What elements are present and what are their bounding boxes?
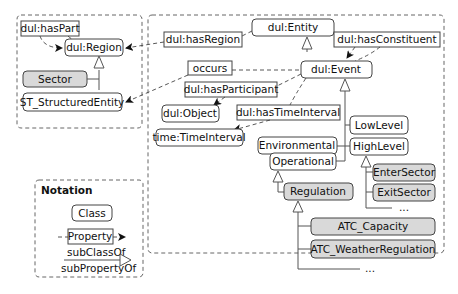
svg-text:ATC_Capacity: ATC_Capacity: [338, 220, 409, 233]
has-part-range-arrow: [40, 36, 62, 48]
svg-text:Operational: Operational: [272, 155, 334, 167]
property-has-time-interval[interactable]: dul:hasTimeInterval: [236, 105, 340, 120]
class-object[interactable]: dul:Object: [162, 105, 219, 122]
svg-text:dul:Entity: dul:Entity: [268, 21, 318, 33]
svg-text:dul:Object: dul:Object: [163, 107, 217, 119]
class-event[interactable]: dul:Event: [301, 61, 372, 78]
has-region-range-arrow: [126, 42, 164, 48]
has-time-interval-domain-line: [290, 78, 306, 105]
class-atc-weather-regulation[interactable]: ATC_WeatherRegulation: [310, 240, 435, 258]
svg-text:dul:hasPart: dul:hasPart: [20, 22, 79, 34]
svg-text:dul:hasTimeInterval: dul:hasTimeInterval: [236, 106, 340, 118]
svg-text:HighLevel: HighLevel: [353, 140, 405, 152]
notation-property: Property: [58, 229, 125, 244]
property-has-participant[interactable]: dul:hasParticipant: [184, 82, 279, 97]
svg-text:Property: Property: [68, 230, 112, 242]
class-environmental[interactable]: Environmental: [258, 137, 337, 154]
svg-text:Class: Class: [78, 207, 106, 219]
has-participant-domain-line: [277, 74, 301, 86]
class-regulation[interactable]: Regulation: [284, 183, 353, 200]
svg-text:Sector: Sector: [38, 73, 72, 85]
class-time-interval[interactable]: time:TimeInterval: [152, 129, 245, 146]
has-region-domain-line: [242, 31, 252, 36]
property-has-constituent[interactable]: dul:hasConstituent: [334, 32, 440, 47]
ellipsis-high-level: ...: [399, 201, 409, 213]
class-high-level[interactable]: HighLevel: [350, 138, 408, 155]
property-has-region[interactable]: dul:hasRegion: [164, 32, 242, 47]
subclass-arrow-high-level: [361, 156, 371, 167]
svg-text:dul:hasRegion: dul:hasRegion: [166, 33, 240, 45]
has-time-interval-range-arrow: [234, 120, 270, 130]
svg-text:dul:Region: dul:Region: [66, 41, 122, 53]
subclass-line-sector: [87, 70, 99, 90]
has-participant-range-arrow: [214, 97, 225, 105]
class-atc-capacity[interactable]: ATC_Capacity: [311, 218, 435, 235]
subclass-arrow-entity: [302, 37, 312, 49]
class-operational[interactable]: Operational: [270, 153, 336, 170]
notation-title: Notation: [41, 184, 92, 196]
svg-text:occurs: occurs: [193, 62, 227, 74]
subclass-arrow-operational: [273, 171, 283, 182]
svg-text:ST_StructuredEntity: ST_StructuredEntity: [20, 96, 125, 109]
svg-text:LowLevel: LowLevel: [355, 119, 403, 131]
subclass-arrow-regulation: [293, 201, 303, 212]
class-exit-sector[interactable]: ExitSector: [373, 184, 435, 201]
notation-class: Class: [72, 205, 112, 221]
svg-text:EnterSector: EnterSector: [373, 166, 436, 178]
occurs-range-arrow: [126, 75, 188, 102]
class-sector[interactable]: Sector: [23, 71, 87, 87]
class-region[interactable]: dul:Region: [65, 39, 123, 56]
svg-text:dul:hasConstituent: dul:hasConstituent: [337, 33, 436, 45]
class-st-structured-entity[interactable]: ST_StructuredEntity: [20, 93, 125, 111]
ontology-diagram: dul:Region dul:hasPart Sector ST_Structu…: [0, 0, 458, 294]
event-subclass-lines: [336, 91, 351, 161]
svg-text:ExitSector: ExitSector: [377, 186, 431, 198]
svg-text:ATC_WeatherRegulation: ATC_WeatherRegulation: [310, 243, 435, 256]
class-enter-sector[interactable]: EnterSector: [373, 164, 436, 181]
property-occurs[interactable]: occurs: [188, 61, 232, 75]
class-low-level[interactable]: LowLevel: [350, 116, 408, 134]
has-constituent-domain-line: [355, 47, 380, 61]
svg-text:Regulation: Regulation: [290, 185, 346, 197]
subclass-arrow-event: [340, 79, 350, 91]
subclass-arrow-region: [94, 56, 104, 68]
svg-text:time:TimeInterval: time:TimeInterval: [152, 131, 245, 143]
notation-subclass-label: subClassOf: [67, 246, 126, 258]
svg-text:dul:hasParticipant: dul:hasParticipant: [184, 83, 279, 95]
svg-text:dul:Event: dul:Event: [311, 63, 361, 75]
ellipsis-regulation: ...: [365, 262, 375, 274]
class-entity[interactable]: dul:Entity: [252, 19, 334, 36]
has-constituent-range-arrow: [347, 47, 355, 58]
property-has-part[interactable]: dul:hasPart: [20, 21, 79, 36]
notation-subproperty-label: subPropertyOf: [61, 262, 136, 274]
svg-text:Environmental: Environmental: [259, 139, 335, 151]
